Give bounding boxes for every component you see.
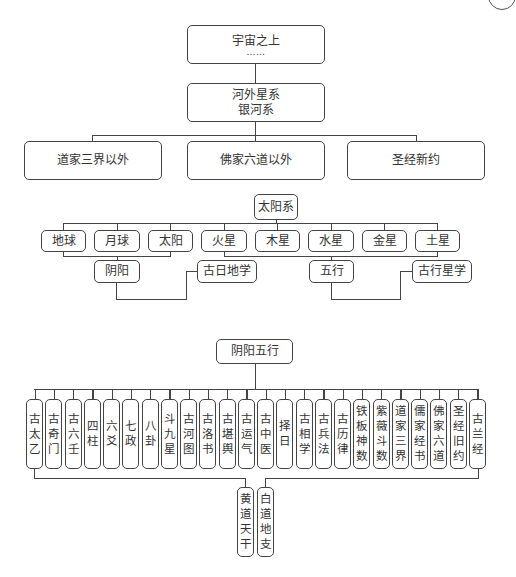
branch-char: 六 — [68, 427, 79, 442]
branch-char: 壬 — [68, 442, 79, 457]
branch-char: 医 — [260, 442, 271, 457]
connector — [384, 223, 385, 230]
branch-char: 斗 — [164, 412, 175, 427]
branch-char: 数 — [376, 449, 387, 464]
branch-char: 界 — [395, 449, 406, 464]
branch-node: 古太乙 — [26, 399, 43, 469]
branch-node: 四柱 — [84, 399, 101, 469]
branch-node: 古洛书 — [199, 399, 216, 469]
branch-char: 圣 — [453, 404, 464, 419]
node-yinyang-wuxing: 阴阳五行 — [216, 339, 293, 364]
branch-char: 堪 — [222, 427, 233, 442]
connector — [420, 389, 421, 399]
node-realm-daoist: 道家三界以外 — [24, 141, 162, 180]
node-earth: 地球 — [41, 230, 86, 252]
root-char: 干 — [240, 537, 251, 552]
branch-char: 斗 — [376, 434, 387, 449]
node-label: 火星 — [212, 234, 236, 249]
branch-char: 八 — [145, 419, 156, 434]
branch-char: 政 — [125, 434, 136, 449]
branch-char: 律 — [337, 442, 348, 457]
node-universe: 宇宙之上 …… — [187, 25, 325, 64]
connector — [265, 478, 266, 487]
branch-node: 铁板神数 — [353, 399, 370, 469]
branch-char: 六 — [106, 419, 117, 434]
branch-char: 爻 — [106, 434, 117, 449]
connector — [92, 389, 93, 399]
branch-char: 古 — [222, 412, 233, 427]
branch-char: 相 — [299, 427, 310, 442]
branch-char: 薇 — [376, 419, 387, 434]
branch-char: 河 — [183, 427, 194, 442]
connector — [477, 389, 478, 399]
branch-node: 古奇门 — [45, 399, 62, 469]
node-wuxing: 五行 — [309, 260, 354, 283]
connector — [331, 223, 332, 230]
connector — [54, 389, 55, 399]
branch-char: 古 — [202, 412, 213, 427]
node-label: 土星 — [426, 234, 450, 249]
branch-char: 洛 — [202, 427, 213, 442]
branch-char: 七 — [125, 419, 136, 434]
connector — [245, 478, 246, 487]
branch-char: 九 — [164, 427, 175, 442]
branch-char: 太 — [29, 427, 40, 442]
branch-char: 家 — [433, 419, 444, 434]
branch-char: 经 — [453, 419, 464, 434]
node-ancient-sun-earth: 古日地学 — [197, 260, 257, 283]
connector — [116, 299, 187, 300]
node-label: 水星 — [319, 234, 343, 249]
branch-char: 古 — [183, 412, 194, 427]
connector — [116, 283, 117, 300]
connector — [117, 223, 118, 230]
node-label: 佛家六道以外 — [220, 153, 292, 168]
connector — [400, 389, 401, 399]
connector — [73, 389, 74, 399]
connector — [285, 389, 286, 399]
branch-node: 圣经旧约 — [450, 399, 467, 469]
root-char: 支 — [260, 537, 271, 552]
branch-char: 紫 — [376, 404, 387, 419]
branch-node: 古历律 — [334, 399, 351, 469]
connector — [131, 389, 132, 399]
branch-node: 古运气 — [238, 399, 255, 469]
branch-char: 古 — [337, 412, 348, 427]
node-sun: 太阳 — [148, 230, 193, 252]
branch-char: 古 — [318, 412, 329, 427]
connector — [63, 223, 64, 230]
branch-char: 星 — [164, 442, 175, 457]
branch-char: 板 — [356, 419, 367, 434]
connector — [331, 283, 332, 300]
branch-char: 兰 — [472, 427, 483, 442]
root-char: 天 — [240, 522, 251, 537]
branch-node: 古兵法 — [315, 399, 332, 469]
branch-char: 家 — [395, 419, 406, 434]
connector — [266, 389, 267, 399]
branch-char: 四 — [87, 419, 98, 434]
branch-node: 六爻 — [103, 399, 120, 469]
connector — [227, 389, 228, 399]
branch-char: 古 — [299, 412, 310, 427]
branch-node: 古相学 — [296, 399, 313, 469]
branch-node: 道家三界 — [392, 399, 409, 469]
branch-node: 儒家经书 — [411, 399, 428, 469]
root-char: 地 — [260, 522, 271, 537]
branch-char: 历 — [337, 427, 348, 442]
node-realm-bible: 圣经新约 — [347, 141, 485, 180]
branch-char: 奇 — [48, 427, 59, 442]
connector — [343, 389, 344, 399]
node-jupiter: 木星 — [255, 230, 300, 252]
node-solar-system: 太阳系 — [254, 194, 298, 220]
branch-char: 佛 — [433, 404, 444, 419]
node-label: 圣经新约 — [392, 153, 440, 168]
node-galaxy-line2: 银河系 — [238, 103, 274, 118]
root-char: 黄 — [240, 492, 251, 507]
branch-node: 紫薇斗数 — [373, 399, 390, 469]
node-label: 太阳系 — [258, 200, 294, 215]
branch-char: 经 — [472, 442, 483, 457]
branch-char: 古 — [48, 412, 59, 427]
branch-char: 柱 — [87, 434, 98, 449]
connector — [458, 389, 459, 399]
node-ancient-planetology: 古行星学 — [412, 260, 472, 283]
branch-node: 古河图 — [180, 399, 197, 469]
